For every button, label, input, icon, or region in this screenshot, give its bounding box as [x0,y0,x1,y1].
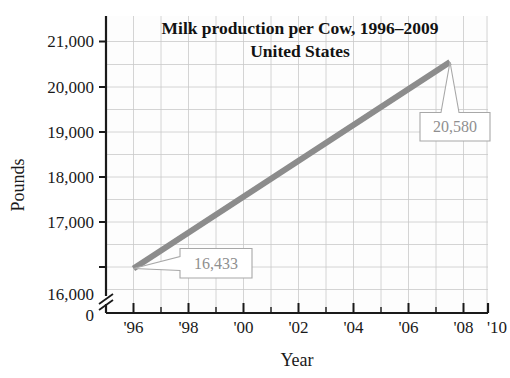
y-tick-label-20000: 20,000 [47,78,94,97]
y-tick-label-17000: 17,000 [47,213,94,232]
chart-figure: 16,433 20,580 Milk production per Cow, 1… [0,0,510,378]
x-tick-label-08: '08 [453,318,473,337]
x-tick-label-98: '98 [178,318,198,337]
y-tick-label-19000: 19,000 [47,123,94,142]
x-tick-label-10: '10 [487,318,507,337]
x-tick-label-04: '04 [343,318,364,337]
callout-20580-label: 20,580 [433,118,477,135]
y-tick-label-0: 0 [86,306,95,325]
x-tick-label-96: '96 [123,318,143,337]
x-tick-label-00: '00 [233,318,253,337]
milk-production-line-chart: 16,433 20,580 Milk production per Cow, 1… [0,0,510,378]
x-axis-title: Year [280,350,313,370]
y-tick-label-16000: 16,000 [47,285,94,304]
x-tick-label-06: '06 [398,318,418,337]
y-axis-title: Pounds [8,158,28,211]
y-tick-label-18000: 18,000 [47,168,94,187]
y-tick-label-21000: 21,000 [47,32,94,51]
chart-title: Milk production per Cow, 1996–2009 [162,18,439,38]
chart-subtitle: United States [250,41,350,61]
x-tick-label-02: '02 [288,318,308,337]
callout-16433-label: 16,433 [194,255,238,272]
